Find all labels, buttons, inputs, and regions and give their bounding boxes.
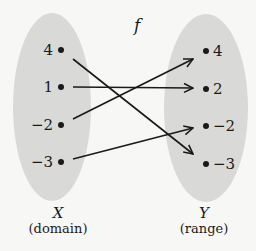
range-point bbox=[203, 48, 209, 54]
range-element: 4 bbox=[213, 42, 223, 60]
function-label: f bbox=[132, 15, 143, 35]
range-point bbox=[203, 123, 209, 129]
range-set-name: Y bbox=[199, 204, 211, 222]
range-caption: (range) bbox=[180, 221, 229, 236]
range-point bbox=[203, 161, 209, 167]
range-set-ellipse bbox=[164, 14, 248, 202]
range-element: −3 bbox=[213, 155, 235, 173]
domain-point bbox=[58, 47, 64, 53]
domain-point bbox=[58, 84, 64, 90]
domain-element: −3 bbox=[31, 153, 53, 171]
domain-point bbox=[58, 159, 64, 165]
range-element: −2 bbox=[213, 117, 235, 135]
domain-element: −2 bbox=[31, 116, 53, 134]
arrow-1-to-2 bbox=[73, 87, 193, 88]
range-element: 2 bbox=[213, 80, 223, 98]
range-point bbox=[203, 86, 209, 92]
domain-point bbox=[58, 122, 64, 128]
domain-element: 4 bbox=[43, 41, 53, 59]
domain-set-name: X bbox=[52, 204, 65, 222]
domain-caption: (domain) bbox=[29, 221, 88, 236]
domain-element: 1 bbox=[43, 78, 53, 96]
function-mapping-diagram: f 4 1 −2 −3 4 2 −2 −3 X (domain) Y (rang… bbox=[0, 0, 256, 251]
